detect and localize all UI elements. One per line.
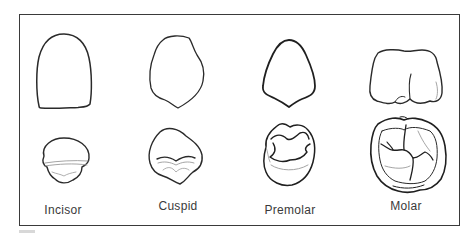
label-molar: Molar [390,199,422,213]
molar-occlusal-icon [371,117,446,193]
page-mark [19,230,35,233]
cuspid-crown-icon [150,36,204,108]
premolar-crown-icon [263,40,315,107]
label-cuspid: Cuspid [158,199,197,213]
incisor-occlusal-icon [43,138,89,183]
molar-crown-icon [370,50,442,104]
label-incisor: Incisor [44,203,81,217]
incisor-crown-icon [37,34,92,108]
cuspid-occlusal-icon [149,129,202,184]
premolar-occlusal-icon [264,124,315,186]
label-premolar: Premolar [264,203,315,217]
